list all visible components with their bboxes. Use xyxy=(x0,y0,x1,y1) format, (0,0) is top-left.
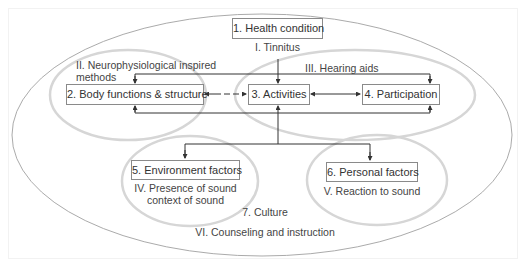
participation-label: 4. Participation xyxy=(365,88,438,100)
participation-box: 4. Participation xyxy=(362,84,440,105)
body-functions-box: 2. Body functions & structure xyxy=(66,84,204,105)
body-functions-label: 2. Body functions & structure xyxy=(67,88,208,100)
hearing-aids-label: III. Hearing aids xyxy=(305,62,379,74)
connector-arrows xyxy=(135,59,430,160)
environment-factors-box: 5. Environment factors xyxy=(131,160,240,180)
health-condition-box: 1. Health condition xyxy=(232,18,323,39)
tinnitus-label: I. Tinnitus xyxy=(232,41,323,53)
culture-label: 7. Culture xyxy=(230,206,300,218)
counseling-label: VI. Counseling and instruction xyxy=(180,226,350,238)
activities-box: 3. Activities xyxy=(248,84,310,105)
context-of-sound-label: context of sound xyxy=(131,194,240,206)
personal-factors-label: 6. Personal factors xyxy=(327,166,419,178)
neurophysiological-label-line1: II. Neurophysiological inspired xyxy=(76,59,216,71)
presence-of-sound-label: IV. Presence of sound xyxy=(131,182,240,194)
environment-factors-label: 5. Environment factors xyxy=(132,164,242,176)
personal-factors-box: 6. Personal factors xyxy=(326,162,418,182)
reaction-to-sound-label: V. Reaction to sound xyxy=(316,185,428,197)
activities-label: 3. Activities xyxy=(251,88,306,100)
neurophysiological-label-line2: methods xyxy=(76,71,116,83)
health-condition-label: 1. Health condition xyxy=(233,22,324,34)
